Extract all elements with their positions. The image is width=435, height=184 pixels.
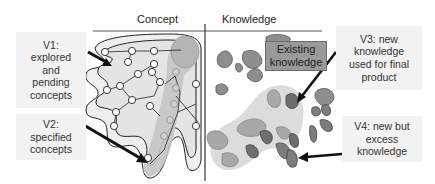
v2-label: V2: specified concepts <box>16 114 86 160</box>
v1-label: V1: explored and pending concepts <box>16 32 86 108</box>
existing-line-1: Existing <box>270 43 323 56</box>
v3-line-3: used for final <box>349 58 409 71</box>
existing-knowledge-label: Existing knowledge <box>265 41 327 71</box>
v3-label: V3: new knowledge used for final product <box>336 26 422 90</box>
v2-line-2: specified <box>30 131 72 144</box>
v1-line-1: V1: <box>30 39 72 52</box>
v3-line-4: product <box>349 71 409 84</box>
v2-line-3: concepts <box>30 143 72 156</box>
v4-line-3: knowledge <box>354 145 409 158</box>
v3-line-1: V3: new <box>349 33 409 46</box>
v1-line-2: explored <box>30 51 72 64</box>
v4-line-1: V4: new but <box>354 120 409 133</box>
v1-line-5: concepts <box>30 89 72 102</box>
v3-line-2: knowledge <box>349 45 409 58</box>
v2-line-1: V2: <box>30 118 72 131</box>
knowledge-header: Knowledge <box>222 14 276 25</box>
concept-tree <box>86 34 201 178</box>
concept-knowledge-diagram: Concept Knowledge Existing knowledge V1:… <box>0 0 435 184</box>
v1-line-3: and <box>30 64 72 77</box>
v1-line-4: pending <box>30 76 72 89</box>
existing-line-2: knowledge <box>270 56 323 69</box>
v4-line-2: excess <box>354 133 409 146</box>
v4-label: V4: new but excess knowledge <box>342 116 422 162</box>
v4-arrow <box>306 154 342 157</box>
concept-header: Concept <box>137 14 178 25</box>
